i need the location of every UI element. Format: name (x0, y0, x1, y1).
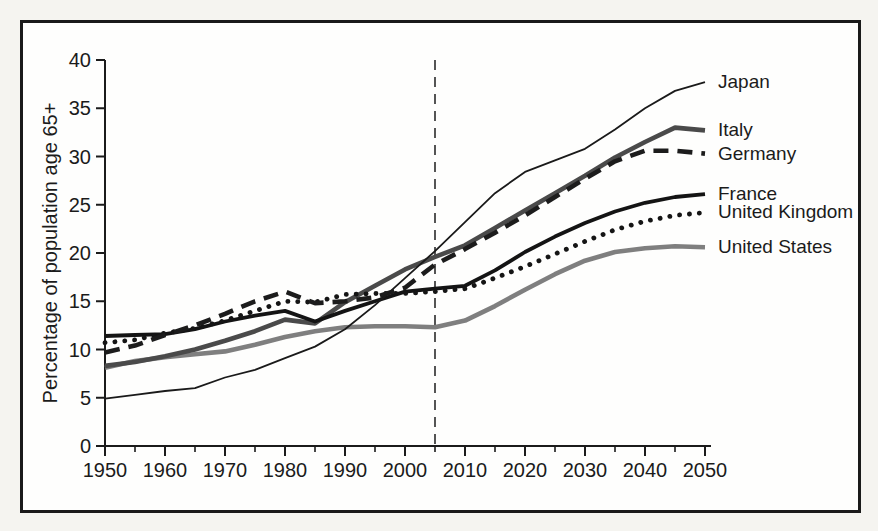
x-tick-label: 1970 (203, 459, 248, 481)
scanned-book-page: 0510152025303540195019601970198019902000… (0, 0, 878, 531)
x-tick-label: 2030 (563, 459, 608, 481)
y-tick-label: 30 (69, 146, 91, 168)
x-tick-label: 2010 (443, 459, 488, 481)
y-tick-label: 35 (69, 97, 91, 119)
x-tick-label: 2020 (503, 459, 548, 481)
series-label-germany: Germany (718, 143, 797, 164)
y-axis-title: Percentage of population age 65+ (39, 103, 61, 404)
series-label-united-kingdom: United Kingdom (718, 201, 853, 222)
x-tick-label: 1990 (323, 459, 368, 481)
series-line-france (105, 194, 705, 336)
population-age-65plus-line-chart: 0510152025303540195019601970198019902000… (23, 23, 858, 510)
series-label-united-states: United States (718, 236, 832, 257)
chart-frame: 0510152025303540195019601970198019902000… (20, 20, 861, 513)
x-tick-label: 2050 (683, 459, 728, 481)
y-tick-label: 40 (69, 49, 91, 71)
y-tick-label: 25 (69, 194, 91, 216)
x-tick-label: 2040 (623, 459, 668, 481)
series-label-italy: Italy (718, 119, 753, 140)
y-tick-label: 10 (69, 339, 91, 361)
y-tick-label: 0 (80, 435, 91, 457)
y-tick-label: 15 (69, 290, 91, 312)
y-tick-label: 20 (69, 242, 91, 264)
y-tick-label: 5 (80, 387, 91, 409)
x-tick-label: 1980 (263, 459, 308, 481)
x-tick-label: 1950 (83, 459, 128, 481)
series-label-japan: Japan (718, 71, 770, 92)
x-tick-label: 1960 (143, 459, 188, 481)
x-tick-label: 2000 (383, 459, 428, 481)
